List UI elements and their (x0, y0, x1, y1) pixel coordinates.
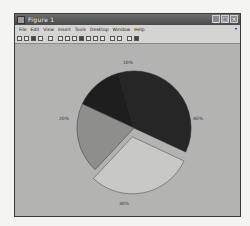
minimize-button[interactable]: _ (212, 15, 220, 23)
window-title: Figure 1 (28, 16, 54, 23)
hide-plot-tools-icon[interactable] (127, 36, 132, 41)
save-icon[interactable] (31, 36, 36, 41)
label-30-percent: 30% (119, 201, 129, 206)
menu-view[interactable]: View (43, 27, 54, 32)
menu-insert[interactable]: Insert (58, 27, 71, 32)
pan-icon[interactable] (72, 36, 77, 41)
link-icon[interactable] (100, 36, 105, 41)
show-plot-tools-icon[interactable] (134, 36, 139, 41)
legend-icon[interactable] (117, 36, 122, 41)
menu-window[interactable]: Window (113, 27, 131, 32)
menu-tools[interactable]: Tools (75, 27, 86, 32)
print-icon[interactable] (38, 36, 43, 41)
matlab-figure-icon (17, 16, 25, 24)
label-10-percent: 10% (123, 60, 133, 65)
zoom-in-icon[interactable] (58, 36, 63, 41)
pointer-icon[interactable] (48, 36, 53, 41)
colorbar-icon[interactable] (110, 36, 115, 41)
menu-dock-arrow-icon[interactable]: ▾ (235, 26, 237, 31)
pie-chart (15, 44, 242, 218)
menu-bar: File Edit View Insert Tools Desktop Wind… (15, 25, 240, 33)
close-button[interactable]: × (230, 15, 238, 23)
figure-window: Figure 1 _ □ × File Edit View Insert Too… (14, 13, 241, 217)
figure-canvas: 10% 40% 30% 20% (15, 44, 240, 216)
open-file-icon[interactable] (24, 36, 29, 41)
rotate-3d-icon[interactable] (79, 36, 84, 41)
label-20-percent: 20% (59, 116, 69, 121)
label-40-percent: 40% (193, 116, 203, 121)
menu-file[interactable]: File (19, 27, 27, 32)
new-figure-icon[interactable] (17, 36, 22, 41)
zoom-out-icon[interactable] (65, 36, 70, 41)
data-cursor-icon[interactable] (86, 36, 91, 41)
menu-help[interactable]: Help (134, 27, 144, 32)
figure-toolbar (15, 33, 240, 44)
brush-icon[interactable] (93, 36, 98, 41)
title-bar[interactable]: Figure 1 _ □ × (15, 14, 240, 25)
menu-desktop[interactable]: Desktop (90, 27, 109, 32)
menu-edit[interactable]: Edit (31, 27, 40, 32)
maximize-button[interactable]: □ (221, 15, 229, 23)
